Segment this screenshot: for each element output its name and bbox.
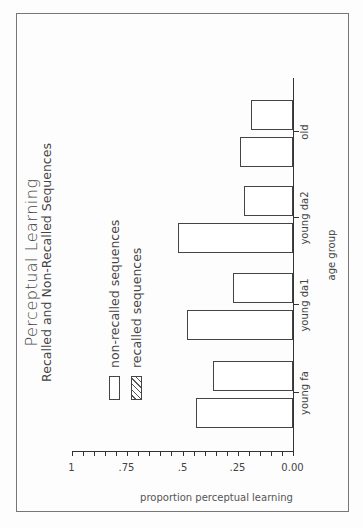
bar-recalled xyxy=(196,398,293,428)
y-axis-tick xyxy=(105,452,106,456)
legend-swatch-hatched xyxy=(131,376,142,400)
y-axis-tick xyxy=(260,452,261,456)
y-axis-tick xyxy=(194,452,195,456)
bar-non-recalled xyxy=(244,186,293,216)
y-axis-tick xyxy=(138,452,139,456)
y-axis-tick xyxy=(116,452,117,456)
y-axis-tick xyxy=(271,452,272,456)
bar-recalled xyxy=(240,137,293,167)
y-tick-label: 0.00 xyxy=(278,462,308,473)
bar-non-recalled xyxy=(213,361,293,391)
y-axis-tick xyxy=(149,452,150,456)
y-tick-label: .5 xyxy=(167,462,197,473)
y-axis-tick xyxy=(227,452,228,456)
y-axis-tick xyxy=(160,452,161,456)
bar-non-recalled xyxy=(233,273,293,303)
y-axis-tick xyxy=(183,452,184,456)
x-tick-label: young da2 xyxy=(299,178,310,258)
legend-item-recalled: recalled sequences xyxy=(129,248,143,400)
y-axis-tick xyxy=(94,452,95,456)
x-axis-line xyxy=(293,78,294,452)
y-tick-label: 1 xyxy=(57,462,87,473)
y-axis-tick xyxy=(72,452,73,456)
bar-recalled xyxy=(178,223,293,253)
chart-subtitle: Recalled and Non-Recalled Sequences xyxy=(39,13,54,512)
y-axis-tick xyxy=(293,452,294,456)
y-tick-label: .75 xyxy=(112,462,142,473)
y-axis-tick xyxy=(205,452,206,456)
x-tick-label: young da1 xyxy=(299,265,310,345)
y-axis-tick xyxy=(216,452,217,456)
legend-label: non-recalled sequences xyxy=(107,220,122,368)
legend-swatch-open xyxy=(109,376,120,400)
y-axis-tick xyxy=(171,452,172,456)
y-axis-tick xyxy=(249,452,250,456)
bar-recalled xyxy=(187,310,293,340)
legend-item-non-recalled: non-recalled sequences xyxy=(107,220,121,400)
x-tick-label: old xyxy=(299,92,310,172)
x-tick-label: young fa xyxy=(299,353,310,433)
bar-non-recalled xyxy=(251,100,293,130)
x-axis-label: age group xyxy=(326,195,337,315)
y-axis-tick xyxy=(127,452,128,456)
rotated-chart: Perceptual Learning Recalled and Non-Rec… xyxy=(16,13,349,512)
y-axis-tick xyxy=(83,452,84,456)
y-axis-label: proportion perceptual learning xyxy=(140,492,293,503)
y-tick-label: .25 xyxy=(222,462,252,473)
y-axis-tick xyxy=(238,452,239,456)
legend-label: recalled sequences xyxy=(129,248,144,368)
y-axis-tick xyxy=(282,452,283,456)
